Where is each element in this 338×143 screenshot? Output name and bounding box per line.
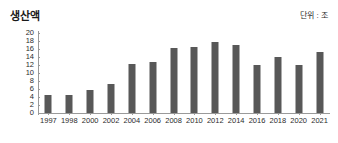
x-tick-label: 2010 [186,116,203,125]
x-tick-mark [48,113,49,115]
bar-series [38,33,330,113]
x-tick-mark [278,113,279,115]
x-tick-label: 2002 [103,116,120,125]
x-tick-mark [153,113,154,115]
bar[interactable] [274,57,281,113]
y-tick-label: 14 [16,53,34,61]
bar-slot [184,33,205,113]
bar-slot [121,33,142,113]
x-tick-mark [174,113,175,115]
chart-title: 생산액 [10,7,39,23]
bar-slot [267,33,288,113]
bar[interactable] [233,45,240,113]
bar-slot [163,33,184,113]
bar[interactable] [316,52,323,113]
y-tick-mark [38,113,40,114]
y-tick-label: 18 [16,37,34,45]
y-tick-label: 8 [16,77,34,85]
bar[interactable] [107,84,114,113]
bar-slot [142,33,163,113]
x-tick-mark [257,113,258,115]
x-tick-mark [132,113,133,115]
x-tick-mark [194,113,195,115]
bar-slot [247,33,268,113]
bar[interactable] [253,65,260,113]
x-tick-mark [320,113,321,115]
y-tick-label: 6 [16,85,34,93]
chart-unit-label: 단위 : 조 [300,9,328,20]
production-value-bar-chart: 생산액 단위 : 조 02468101214161820 19971998200… [0,0,338,143]
bar[interactable] [87,90,94,113]
bar-slot [38,33,59,113]
bar[interactable] [66,95,73,113]
y-tick-label: 10 [16,69,34,77]
x-tick-label: 2006 [144,116,161,125]
x-tick-label: 2014 [228,116,245,125]
y-tick-label: 20 [16,29,34,37]
bar[interactable] [191,47,198,113]
y-tick-label: 0 [16,109,34,117]
x-tick-label: 1998 [61,116,78,125]
x-tick-label: 2004 [124,116,141,125]
y-tick-label: 2 [16,101,34,109]
x-tick-label: 2012 [207,116,224,125]
y-tick-label: 16 [16,45,34,53]
bar-slot [205,33,226,113]
bar-slot [59,33,80,113]
bar-slot [226,33,247,113]
x-tick-mark [111,113,112,115]
x-tick-mark [90,113,91,115]
x-tick-mark [69,113,70,115]
x-axis-tick-labels: 1997199820002002200420062008201020122014… [38,116,330,132]
bar-slot [101,33,122,113]
y-axis-tick-labels: 02468101214161820 [16,33,34,113]
x-tick-label: 2000 [82,116,99,125]
x-tick-mark [299,113,300,115]
x-tick-label: 2008 [165,116,182,125]
x-tick-label: 2016 [249,116,266,125]
bar[interactable] [128,64,135,113]
x-tick-mark [215,113,216,115]
y-tick-label: 12 [16,61,34,69]
x-axis-line [38,113,330,114]
x-tick-mark [236,113,237,115]
bar-slot [288,33,309,113]
bar[interactable] [45,95,52,113]
bar[interactable] [170,48,177,113]
bar-slot [309,33,330,113]
bar[interactable] [295,65,302,113]
x-tick-label: 1997 [40,116,57,125]
x-tick-label: 2018 [270,116,287,125]
bar[interactable] [212,42,219,113]
y-tick-label: 4 [16,93,34,101]
x-tick-label: 2021 [311,116,328,125]
x-tick-label: 2020 [290,116,307,125]
bar-slot [80,33,101,113]
bar[interactable] [149,62,156,113]
